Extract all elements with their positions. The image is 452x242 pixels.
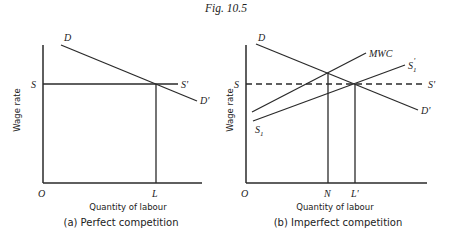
label-origin: O: [38, 188, 45, 199]
y-axis-label: Wage rate: [225, 88, 235, 132]
label-s-prime: S': [181, 79, 189, 90]
label-d-prime: D': [199, 95, 210, 106]
panel-caption: (a) Perfect competition: [63, 217, 178, 228]
figure-title: Fig. 10.5: [204, 2, 247, 15]
label-origin: O: [241, 188, 248, 199]
label-s1-prime: S1': [408, 57, 417, 74]
y-axis-label: Wage rate: [12, 88, 22, 132]
label-l-prime: L': [350, 188, 360, 199]
label-s: S: [31, 79, 36, 90]
label-s1-prime-sub: 1: [413, 66, 417, 74]
label-s1-sub: 1: [260, 130, 264, 138]
demand-line: [61, 45, 197, 101]
demand-line: [256, 44, 418, 110]
label-d: D: [257, 32, 266, 43]
panel-b: D D' S S' MWC S1 S1' O N L' Wage rate Qu…: [225, 32, 436, 228]
label-s1: S1: [255, 124, 264, 138]
label-l: L: [151, 188, 158, 199]
label-d-prime: D': [420, 105, 431, 116]
panel-a: D D' S S' O L Wage rate Quantity of labo…: [12, 32, 210, 228]
label-s-prime: S': [428, 79, 436, 90]
label-n: N: [323, 188, 332, 199]
label-s1-prime-mark: ': [414, 57, 416, 66]
panel-caption: (b) Imperfect competition: [274, 217, 403, 228]
label-d: D: [63, 32, 72, 43]
figure: Fig. 10.5 D D' S S' O L Wage rate Quanti…: [0, 0, 452, 242]
x-axis-label: Quantity of labour: [296, 202, 374, 212]
x-axis-label: Quantity of labour: [89, 202, 167, 212]
label-mwc: MWC: [368, 48, 393, 59]
